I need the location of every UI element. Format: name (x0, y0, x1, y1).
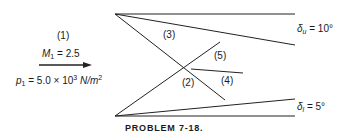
pressure-value: = 5.0 × 10 (28, 75, 73, 86)
delta-l-subscript: l (303, 106, 305, 113)
region-2-label: (2) (182, 78, 194, 88)
mach-value: = 2.5 (57, 48, 80, 59)
lower-deflection-label: δl = 5° (297, 102, 325, 113)
pressure-units-exponent: 2 (98, 74, 102, 81)
lower-shock (115, 42, 220, 116)
upper-deflection-label: δu = 10° (297, 24, 333, 35)
mach-subscript: 1 (50, 53, 54, 60)
upper-wall-deflected (115, 14, 295, 45)
region-5-label: (5) (214, 51, 226, 61)
duct-geometry (0, 0, 350, 135)
pressure-subscript: 1 (22, 80, 26, 87)
mach-label: M1 = 2.5 (42, 49, 80, 60)
lower-wall-deflected (115, 99, 295, 116)
flow-arrow-icon (39, 62, 92, 68)
slip-line (191, 69, 243, 73)
region-4-label: (4) (221, 76, 233, 86)
pressure-label: p1 = 5.0 × 103 N/m2 (16, 74, 102, 87)
delta-l-value: = 5° (307, 101, 325, 112)
delta-u-value: = 10° (309, 23, 333, 34)
figure-caption: PROBLEM 7-18. (125, 123, 203, 133)
region-3-label: (3) (163, 30, 175, 40)
pressure-units: N/m (80, 75, 98, 86)
upper-shock (115, 14, 225, 100)
region-1-label: (1) (57, 31, 69, 41)
pressure-exponent: 3 (73, 74, 77, 81)
delta-u-subscript: u (303, 28, 307, 35)
